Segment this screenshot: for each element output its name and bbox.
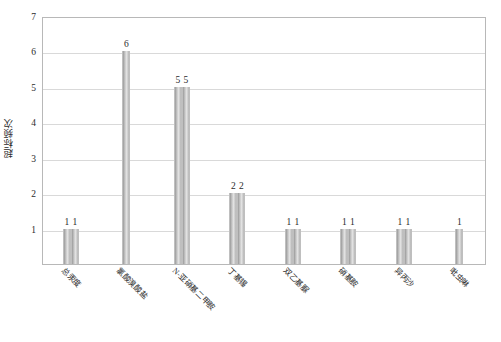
bar-value-label: 1 [405, 217, 410, 227]
bar[interactable]: 2 [229, 193, 237, 264]
bar[interactable]: 1 [455, 229, 463, 264]
bar-chart: 超标频次 1234567 11655221111111 总汞度氯酸溴酸盐N-亚硝… [0, 0, 501, 342]
x-axis-label-4: 双乙基脲 [281, 266, 310, 295]
bar-group: 1 [432, 18, 488, 264]
bar-group: 11 [43, 18, 99, 264]
bar-value-label: 1 [72, 217, 77, 227]
bar-value-label: 6 [124, 39, 129, 49]
y-axis-tick-labels: 1234567 [18, 0, 40, 342]
y-axis-tick-7: 7 [31, 12, 36, 22]
bar-group: 55 [154, 18, 210, 264]
y-axis-tick-1: 1 [31, 225, 36, 235]
y-axis-tick-4: 4 [31, 118, 36, 128]
bar[interactable]: 1 [293, 229, 301, 264]
bar-value-label: 2 [239, 181, 244, 191]
bar[interactable]: 6 [122, 51, 130, 264]
bar-value-label: 1 [342, 217, 347, 227]
x-axis-label-3: 丁基锡 [226, 266, 249, 289]
bar[interactable]: 5 [174, 87, 182, 264]
x-axis-label-2: N-亚硝基二甲胺 [170, 266, 216, 312]
bar-value-label: 1 [397, 217, 402, 227]
y-axis-tick-2: 2 [31, 189, 36, 199]
bar-group: 6 [99, 18, 155, 264]
bar[interactable]: 1 [71, 229, 79, 264]
bar-group: 11 [265, 18, 321, 264]
bar-value-label: 5 [183, 75, 188, 85]
bar-value-label: 1 [286, 217, 291, 227]
bars-layer: 11655221111111 [43, 18, 485, 264]
bar[interactable]: 1 [340, 229, 348, 264]
bar-value-label: 1 [64, 217, 69, 227]
bar[interactable]: 2 [237, 193, 245, 264]
bar[interactable]: 1 [348, 229, 356, 264]
x-axis-label-0: 总汞度 [59, 266, 82, 289]
y-axis-tick-6: 6 [31, 47, 36, 57]
y-axis-tick-3: 3 [31, 154, 36, 164]
y-axis-tick-5: 5 [31, 83, 36, 93]
bar[interactable]: 1 [285, 229, 293, 264]
x-axis-label-1: 氯酸溴酸盐 [115, 266, 150, 301]
bar[interactable]: 5 [182, 87, 190, 264]
bar[interactable]: 1 [396, 229, 404, 264]
x-axis-label-6: 异丙沙 [392, 266, 415, 289]
bar-value-label: 1 [294, 217, 299, 227]
plot-area: 11655221111111 [42, 17, 486, 265]
bar-value-label: 1 [457, 217, 462, 227]
bar-value-label: 2 [231, 181, 236, 191]
bar-value-label: 1 [350, 217, 355, 227]
x-axis-label-5: 硝基胺 [337, 266, 360, 289]
bar-group: 11 [376, 18, 432, 264]
x-axis-label-7: 吡虫啉 [448, 266, 471, 289]
bar[interactable]: 1 [404, 229, 412, 264]
bar-group: 11 [321, 18, 377, 264]
y-axis-title: 超标频次 [2, 118, 16, 158]
bar[interactable]: 1 [63, 229, 71, 264]
bar-value-label: 5 [175, 75, 180, 85]
bar-group: 22 [210, 18, 266, 264]
x-axis-tick-labels: 总汞度氯酸溴酸盐N-亚硝基二甲胺丁基锡双乙基脲硝基胺异丙沙吡虫啉 [42, 266, 486, 342]
